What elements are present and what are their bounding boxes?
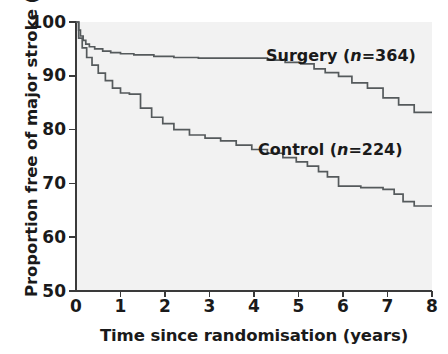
y-axis-title: Proportion free of major stroke (%) <box>20 7 44 297</box>
surgery-label-prefix: Surgery ( <box>266 46 350 65</box>
surgery-label-suffix: =364) <box>362 46 416 65</box>
control-label-n: n <box>337 140 348 159</box>
surgery-curve <box>76 22 432 112</box>
control-label-suffix: =224) <box>348 140 402 159</box>
surgery-series-label: Surgery (n=364) <box>266 46 416 65</box>
surgery-label-n: n <box>350 46 361 65</box>
survival-chart-figure: 5060708090100 012345678 Surgery (n=364) … <box>0 0 448 354</box>
x-axis-title: Time since randomisation (years) <box>76 326 432 345</box>
control-label-prefix: Control ( <box>258 140 337 159</box>
control-series-label: Control (n=224) <box>258 140 403 159</box>
